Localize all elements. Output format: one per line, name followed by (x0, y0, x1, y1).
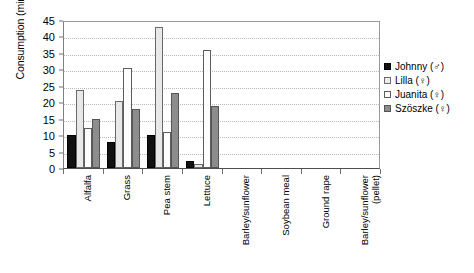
x-axis-label: Soybean meal (281, 175, 292, 271)
bar-chart: Consumption (min) 051015202530354045 Alf… (0, 0, 474, 273)
legend-item: Johnny (♂) (384, 60, 474, 73)
x-axis-label: Lettuce (202, 175, 213, 271)
chart-legend: Johnny (♂)Lilla (♀)Juanita (♀)Szöszke (♀… (384, 60, 474, 116)
bar (163, 132, 171, 168)
x-tick-mark (182, 169, 183, 174)
x-axis-label: Ground rape (321, 175, 332, 271)
legend-swatch-icon (384, 105, 391, 112)
x-tick-mark (222, 169, 223, 174)
y-tick-label: 30 (43, 64, 55, 76)
x-tick-mark (340, 169, 341, 174)
x-axis-label: Grass (122, 175, 133, 271)
bar (186, 161, 194, 168)
x-axis-label: Barley/sunflower (pellet) (360, 175, 381, 271)
legend-label: Juanita (♀) (395, 89, 444, 100)
bars-layer (64, 22, 379, 168)
y-tick-label: 40 (43, 31, 55, 43)
legend-label: Lilla (♀) (395, 75, 430, 86)
legend-item: Lilla (♀) (384, 74, 474, 87)
x-tick-mark (63, 169, 64, 174)
y-axis-ticks: 051015202530354045 (0, 21, 63, 169)
x-axis-label: Pea stem (162, 175, 173, 271)
bar (115, 101, 123, 168)
x-axis-tickmarks (63, 169, 380, 174)
x-tick-mark (261, 169, 262, 174)
bar (211, 106, 219, 168)
bar (84, 128, 92, 168)
y-tick-label: 25 (43, 81, 55, 93)
legend-label: Szöszke (♀) (395, 103, 450, 114)
bar (123, 68, 131, 168)
x-tick-mark (142, 169, 143, 174)
x-tick-mark (103, 169, 104, 174)
bar (107, 142, 115, 168)
bar (132, 109, 140, 168)
legend-swatch-icon (384, 91, 391, 98)
legend-swatch-icon (384, 77, 391, 84)
x-axis-label: Barley/sunflower (241, 175, 252, 271)
bar (203, 50, 211, 168)
y-tick-label: 20 (43, 97, 55, 109)
legend-swatch-icon (384, 63, 391, 70)
y-tick-label: 10 (43, 130, 55, 142)
y-tick-label: 0 (49, 163, 55, 175)
x-tick-mark (380, 169, 381, 174)
legend-label: Johnny (♂) (395, 61, 444, 72)
x-axis-labels: AlfalfaGrassPea stemLettuceBarley/sunflo… (63, 175, 380, 273)
x-tick-mark (301, 169, 302, 174)
bar (76, 90, 84, 168)
plot-area (63, 21, 380, 169)
x-axis-label: Alfalfa (83, 175, 94, 271)
bar (194, 164, 202, 168)
y-tick-label: 5 (49, 147, 55, 159)
y-tick-label: 15 (43, 114, 55, 126)
bar (67, 135, 75, 168)
legend-item: Juanita (♀) (384, 88, 474, 101)
bar (155, 27, 163, 168)
bar (92, 119, 100, 168)
bar (147, 135, 155, 168)
legend-item: Szöszke (♀) (384, 102, 474, 115)
y-tick-label: 45 (43, 15, 55, 27)
bar (171, 93, 179, 168)
y-tick-label: 35 (43, 48, 55, 60)
